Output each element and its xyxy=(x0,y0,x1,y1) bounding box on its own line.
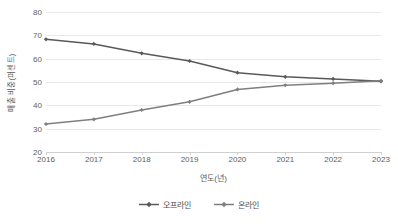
x-tick-label: 2018 xyxy=(133,155,151,164)
y-tick-label: 60 xyxy=(18,54,42,63)
y-tick-label: 50 xyxy=(18,78,42,87)
data-point-marker xyxy=(331,81,335,85)
data-point-marker xyxy=(235,71,239,75)
y-axis-title: 매출 비중(퍼센트) xyxy=(2,0,18,165)
x-axis-tick-labels: 20162017201820192020202120222023 xyxy=(46,155,381,169)
data-point-marker xyxy=(187,100,191,104)
x-tickmark xyxy=(381,152,382,155)
x-tick-label: 2021 xyxy=(276,155,294,164)
data-point-marker xyxy=(44,122,48,126)
data-point-marker xyxy=(92,42,96,46)
x-tick-label: 2019 xyxy=(181,155,199,164)
series-line xyxy=(46,39,381,81)
legend-label: 온라인 xyxy=(238,199,260,210)
legend-item[interactable]: 온라인 xyxy=(214,199,260,210)
data-point-marker xyxy=(283,75,287,79)
y-tick-label: 80 xyxy=(18,8,42,17)
data-point-marker xyxy=(331,77,335,81)
data-point-marker xyxy=(379,79,383,83)
x-tickmark xyxy=(142,152,143,155)
legend-marker-icon xyxy=(214,200,234,209)
legend-marker-icon xyxy=(139,200,159,209)
series-line xyxy=(46,81,381,124)
legend-label: 오프라인 xyxy=(163,199,192,210)
y-tick-label: 70 xyxy=(18,31,42,40)
x-axis-title: 연도(년) xyxy=(46,172,381,183)
y-tick-label: 30 xyxy=(18,124,42,133)
x-tickmark xyxy=(285,152,286,155)
data-point-marker xyxy=(235,87,239,91)
x-axis-line xyxy=(46,152,381,153)
x-tickmark xyxy=(94,152,95,155)
x-tick-label: 2022 xyxy=(324,155,342,164)
plot-area xyxy=(46,12,381,152)
data-point-marker xyxy=(92,117,96,121)
series-lines xyxy=(46,12,381,152)
data-point-marker xyxy=(187,59,191,63)
x-tick-label: 2020 xyxy=(229,155,247,164)
y-axis-tick-labels: 20304050607080 xyxy=(18,0,42,224)
data-point-marker xyxy=(283,83,287,87)
line-chart: 매출 비중(퍼센트) 20304050607080 20162017201820… xyxy=(0,0,398,224)
x-tick-label: 2016 xyxy=(37,155,55,164)
y-axis-title-text: 매출 비중(퍼센트) xyxy=(5,53,16,111)
x-tickmark xyxy=(46,152,47,155)
data-point-marker xyxy=(140,51,144,55)
data-point-marker xyxy=(44,37,48,41)
x-tickmark xyxy=(333,152,334,155)
data-point-marker xyxy=(140,108,144,112)
x-tickmark xyxy=(190,152,191,155)
x-tickmark xyxy=(237,152,238,155)
x-tick-label: 2017 xyxy=(85,155,103,164)
chart-legend: 오프라인온라인 xyxy=(0,199,398,210)
legend-item[interactable]: 오프라인 xyxy=(139,199,192,210)
y-tick-label: 40 xyxy=(18,101,42,110)
x-tick-label: 2023 xyxy=(372,155,390,164)
